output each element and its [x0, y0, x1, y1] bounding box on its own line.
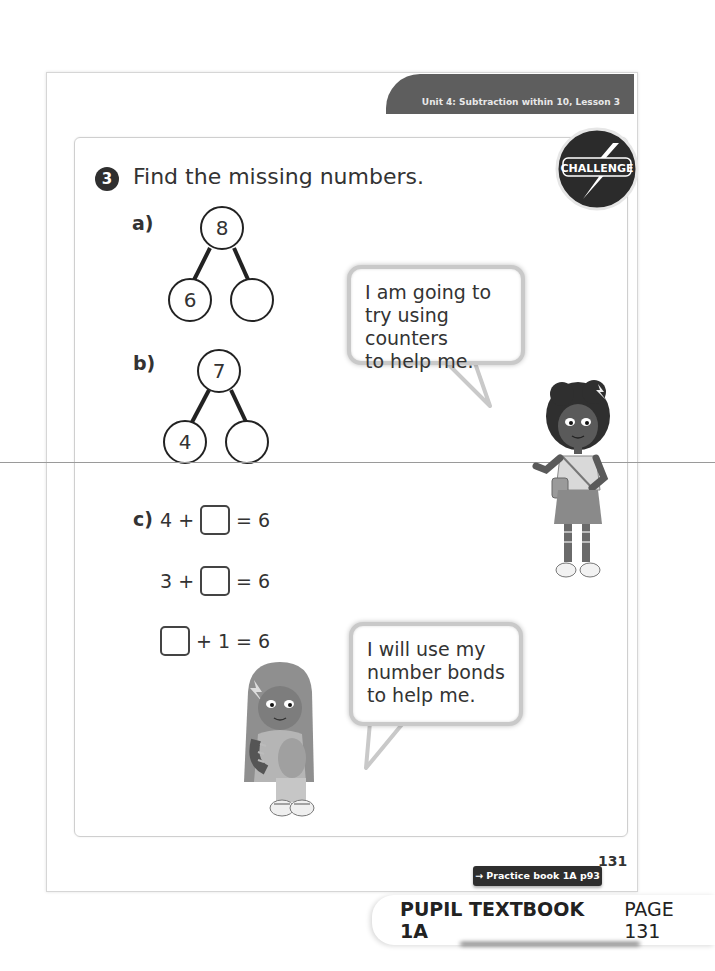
- part-b-label: b): [133, 352, 155, 374]
- answer-box[interactable]: [200, 566, 230, 596]
- character-standing-girl-icon: [532, 378, 622, 582]
- equation-right: = 6: [236, 509, 270, 531]
- bubble-line: try using counters: [365, 304, 507, 350]
- unit-banner: Unit 4: Subtraction within 10, Lesson 3: [386, 74, 634, 114]
- textbook-page-label: PUPIL TEXTBOOK 1A PAGE 131: [372, 895, 715, 945]
- lightning-icon: CHALLENGE: [553, 125, 641, 213]
- equation-right: = 6: [236, 570, 270, 592]
- part-c-label: c): [133, 508, 153, 530]
- bubble-line: I will use my: [367, 638, 505, 661]
- equation-3: + 1 = 6: [160, 626, 270, 656]
- challenge-badge: CHALLENGE: [553, 125, 641, 213]
- textbook-page: PAGE 131: [624, 898, 715, 942]
- part-left-value: 4: [179, 430, 192, 454]
- whole-value: 8: [216, 216, 229, 240]
- label-shadow: [460, 942, 640, 946]
- question-number: 3: [95, 167, 119, 191]
- part-a-label: a): [132, 212, 154, 234]
- unit-banner-text: Unit 4: Subtraction within 10, Lesson 3: [422, 97, 620, 107]
- equation-left: 3 +: [160, 570, 194, 592]
- speech-bubble-counters: I am going to try using counters to help…: [347, 265, 525, 365]
- answer-box[interactable]: [160, 626, 190, 656]
- part-whole-model-a: 8 6: [158, 204, 288, 328]
- equation-right: + 1 = 6: [196, 630, 270, 652]
- page-number: 131: [598, 853, 627, 869]
- character-sitting-girl-icon: [236, 662, 324, 826]
- part-whole-model-b: 7 4: [153, 348, 283, 472]
- bubble-line: number bonds: [367, 661, 505, 684]
- equation-1: 4 + = 6: [160, 505, 270, 535]
- answer-box[interactable]: [200, 505, 230, 535]
- bubble-line: to help me.: [367, 684, 505, 707]
- whole-value: 7: [213, 359, 226, 383]
- bubble-line: I am going to: [365, 281, 507, 304]
- question-prompt: Find the missing numbers.: [133, 164, 424, 189]
- bubble-line: to help me.: [365, 350, 507, 373]
- speech-tail-icon: [360, 722, 420, 772]
- practice-book-link[interactable]: → Practice book 1A p93: [473, 866, 602, 886]
- challenge-text: CHALLENGE: [560, 162, 633, 175]
- part-left-value: 6: [184, 288, 197, 312]
- equation-2: 3 + = 6: [160, 566, 270, 596]
- textbook-title: PUPIL TEXTBOOK 1A: [400, 898, 616, 942]
- speech-bubble-number-bonds: I will use my number bonds to help me.: [349, 622, 523, 726]
- equation-left: 4 +: [160, 509, 194, 531]
